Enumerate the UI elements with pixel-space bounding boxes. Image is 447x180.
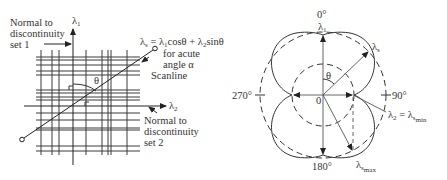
lambdamax-label: λsmax	[356, 159, 376, 174]
angle-90-label: 90°	[392, 90, 407, 101]
scanline-pointer	[142, 57, 149, 62]
normal-set2-label: Normal to discontinuity set 2	[144, 115, 200, 148]
figure: λ1 λ2 Normal to discontinuity set 1 Norm…	[0, 0, 447, 180]
svg-text:discontinuity: discontinuity	[10, 28, 66, 39]
equation-note-line2: angle α	[163, 59, 194, 70]
normal-set1-label: Normal to discontinuity set 1	[10, 17, 66, 50]
lambda2-axis-label: λ2	[169, 100, 178, 113]
angle-180-label: 180°	[312, 161, 332, 172]
svg-text:Normal to: Normal to	[144, 115, 187, 126]
svg-text:Normal to: Normal to	[10, 17, 53, 28]
equation-note-line1: for acute	[163, 48, 200, 59]
lambda1-axis-label: λ1	[72, 15, 81, 28]
lambdamax-ray	[323, 95, 352, 150]
scanline-start-point	[20, 137, 25, 142]
polar-diagram: 0° λ1 λs θ 0 270° 90° 180° λ2 = λsmin λs…	[232, 9, 427, 174]
svg-text:discontinuity: discontinuity	[144, 126, 200, 137]
theta-label-left: θ	[94, 75, 99, 86]
scanline	[24, 50, 153, 138]
right-angle-mark	[69, 86, 73, 90]
scanline-label: Scanline	[151, 70, 187, 81]
discontinuity-diagram: λ1 λ2 Normal to discontinuity set 1 Norm…	[10, 15, 224, 165]
angle-0-label: 0°	[317, 9, 326, 20]
set2-pointer	[149, 107, 157, 113]
theta-label-right: θ	[326, 70, 331, 81]
svg-text:set 2: set 2	[144, 137, 164, 148]
svg-text:set 1: set 1	[10, 39, 30, 50]
origin-label: 0	[316, 95, 321, 106]
angle-270-label: 270°	[232, 90, 252, 101]
lambda2-min-label: λ2 = λsmin	[388, 109, 427, 124]
